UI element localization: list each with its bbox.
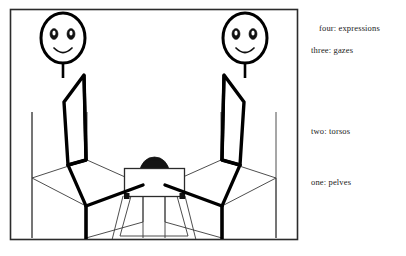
- annotation-one-pelves: one: pelves: [311, 178, 351, 187]
- right-person-right-eye-highlight: [251, 31, 254, 36]
- table-right-bracket: [180, 193, 186, 199]
- left-person-right-eye-highlight: [69, 31, 72, 36]
- left-shoulder-spur: [84, 75, 86, 160]
- annotation-four-expressions: four: expressions: [319, 24, 380, 33]
- table-left-bracket: [124, 193, 130, 199]
- figure-canvas: four: expressions three: gazes two: tors…: [0, 0, 406, 256]
- right-shoulder-spur: [222, 75, 224, 160]
- table-top-panel: [125, 169, 185, 197]
- left-person-left-eye-highlight: [52, 31, 55, 36]
- right-person-left-eye-highlight: [234, 31, 237, 36]
- right-head: [223, 13, 267, 63]
- annotation-two-torsos: two: torsos: [311, 127, 350, 136]
- left-head: [41, 13, 85, 63]
- annotation-three-gazes: three: gazes: [311, 46, 353, 55]
